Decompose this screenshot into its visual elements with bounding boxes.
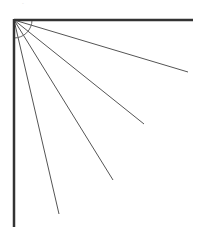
ray-line-1 [14,20,188,72]
ray-line-4 [14,20,59,214]
rays-group [14,20,188,214]
angle-fan-diagram [0,0,202,233]
ray-line-2 [14,20,144,124]
ray-line-3 [14,20,113,180]
